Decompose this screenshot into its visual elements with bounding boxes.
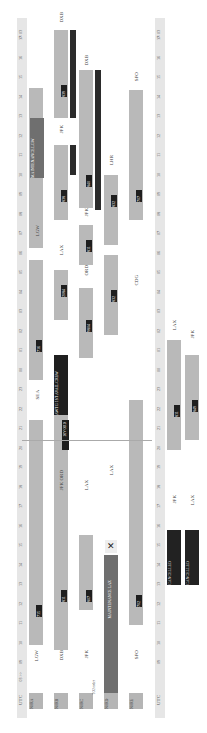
flight-number-tag: 811 [174,405,180,417]
hour-tick: 14 [156,95,161,99]
flight-bar-dark[interactable] [70,145,76,175]
station-label: SFO [134,650,139,659]
flight-bar[interactable] [129,400,143,625]
reg-row-1[interactable]: N0RA [29,693,43,709]
flight-number-tag: 716 [36,340,42,352]
hour-tick: 14 [18,95,23,99]
flight-number-tag: 838 [61,190,67,202]
hour-tick: 10 [156,641,161,645]
hour-tick: 00 [18,368,23,372]
flight-bar-dark[interactable] [70,30,76,118]
hour-tick: 17 [18,504,23,508]
hour-tick: 11 [18,621,23,625]
hour-tick: 20 [156,446,161,450]
flight-number-tag: 707 [136,190,142,202]
cancelled-block[interactable]: CANCELLED [167,530,181,585]
hour-tick: 22 [156,407,161,411]
station-label: LAX [84,480,89,490]
hour-tick: 10 [156,173,161,177]
hour-tick: 15 [18,543,23,547]
hour-tick: 12 [18,134,23,138]
flight-bar[interactable] [79,70,93,208]
hour-tick: 13 [156,582,161,586]
station-label: LHR [109,155,114,165]
hour-tick: 11 [156,153,161,157]
flight-bar[interactable] [54,30,68,118]
flight-bar[interactable] [167,340,181,450]
day-label: 03 >> [18,672,23,682]
hour-tick: 15 [156,75,161,79]
maintenance-block[interactable]: MAINTENANCE LGW [30,118,44,178]
hour-tick: 15 [18,75,23,79]
hour-tick: 11 [156,621,161,625]
aircraft-note: TO2 order [92,680,96,695]
hour-tick: 09 [18,660,23,664]
flight-number-tag: 840 [86,175,92,187]
hour-tick: 04 [18,290,23,294]
hour-tick: 02 [156,329,161,333]
hour-tick: 19 [156,465,161,469]
station-label: LAX [172,320,177,330]
flight-number-tag: 811 [86,240,92,252]
station-label: JFK [84,208,89,216]
hour-tick: 13 [18,582,23,586]
cancelled-block[interactable]: CANCELLED [185,530,199,585]
hour-tick: 17 [156,504,161,508]
flight-bar[interactable] [185,355,199,440]
hour-tick: 16 [156,524,161,528]
hour-tick: 23 [18,387,23,391]
hour-tick: 08 [156,212,161,216]
hour-tick: 04 [156,290,161,294]
reg-row-4[interactable]: N0RD [104,693,118,709]
hour-tick: 22 [18,407,23,411]
reg-row-3[interactable]: N0RC [79,693,93,709]
flight-bar-dark[interactable] [95,70,101,210]
hour-tick: 18 [18,485,23,489]
hour-tick: 00 [156,368,161,372]
station-label: LAX [190,495,195,505]
hour-tick: 03 [18,309,23,313]
hour-tick: 06 [156,251,161,255]
flight-number-tag: 832 [111,290,117,302]
station-label: JFK ORD [59,470,64,490]
flight-number-tag: 702 [136,595,142,607]
crew-block[interactable]: AWTG 1ST AVAIL CREW [54,355,68,415]
hour-tick: 14 [18,563,23,567]
hour-tick: 18 [156,485,161,489]
hour-tick: 06 [18,251,23,255]
maintenance-block[interactable] [104,555,118,693]
flight-number-tag: 715 [36,605,42,617]
hour-tick: 09 [156,660,161,664]
flight-number-tag: 839 [61,85,67,97]
hour-tick: 19 [18,465,23,469]
hour-tick: 23 [156,387,161,391]
hour-tick: 16 [156,56,161,60]
hour-tick: 14 [156,563,161,567]
flight-number-tag: 849 [192,400,198,412]
hour-tick: 08 [18,212,23,216]
hour-tick: 10 [18,641,23,645]
station-label: JFK [84,650,89,658]
station-label: DXB [59,650,64,661]
flight-bar[interactable] [29,260,43,380]
flight-bar[interactable] [54,145,68,220]
wrench-icon: ✕ [105,540,117,553]
section-divider [22,440,152,441]
hour-tick: 09 [18,192,23,196]
reg-row-5[interactable]: N0RE [129,693,143,709]
flight-bar[interactable] [104,175,118,245]
hour-tick: 21 [18,426,23,430]
hour-tick: 05 [18,270,23,274]
station-label: SEA [35,390,40,399]
hour-tick: 02 [18,329,23,333]
station-label: DXB [59,12,64,23]
hour-tick: 11 [18,153,23,157]
flight-number-tag: 832 [111,195,117,207]
hour-tick: 17 [156,36,161,40]
reg-row-2[interactable]: N0RB [54,693,68,709]
station-label: CDG [134,275,139,286]
station-label: LGW [35,225,40,236]
hour-tick: 15 [156,543,161,547]
flight-number-tag: 9804 [86,320,92,332]
hour-tick: 13 [18,114,23,118]
